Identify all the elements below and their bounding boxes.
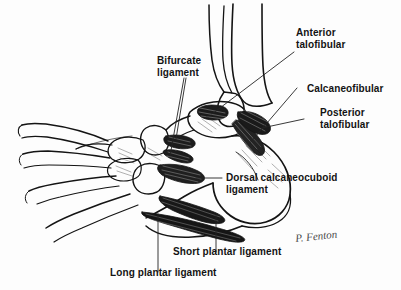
- label-posterior-talofibular: Posterior talofibular: [320, 107, 369, 130]
- label-dorsal-calcaneocuboid: Dorsal calcaneocuboid ligament: [226, 172, 338, 195]
- leader-anterior-talofibular: [212, 52, 294, 114]
- label-short-plantar-ligament: Short plantar ligament: [173, 246, 281, 258]
- label-long-plantar-ligament: Long plantar ligament: [110, 267, 217, 279]
- label-bifurcate-ligament: Bifurcate ligament: [157, 55, 201, 78]
- ligament-bifurcate: [163, 135, 195, 163]
- label-anterior-talofibular: Anterior talofibular: [296, 27, 345, 50]
- leader-bifurcate-upper: [176, 78, 186, 139]
- label-calcaneofibular: Calcaneofibular: [307, 83, 384, 95]
- anatomy-figure: Bifurcate ligament Anterior talofibular …: [0, 0, 401, 290]
- ligament-anterior-talofibular: [197, 105, 228, 120]
